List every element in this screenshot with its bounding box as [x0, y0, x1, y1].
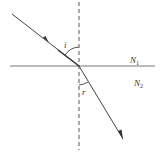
medium1-label: N1	[129, 55, 139, 66]
refraction-diagram: i r N1 N2	[0, 0, 161, 152]
refracted-arrow-icon	[118, 130, 123, 140]
incident-arrow-icon	[43, 36, 49, 43]
refracted-ray	[79, 66, 123, 139]
medium2-label: N2	[133, 78, 143, 89]
refraction-arc	[79, 82, 88, 85]
incidence-angle-label: i	[64, 40, 67, 50]
incidence-arc	[65, 47, 79, 55]
refraction-angle-label: r	[82, 87, 86, 97]
incident-ray-thick	[58, 50, 79, 66]
